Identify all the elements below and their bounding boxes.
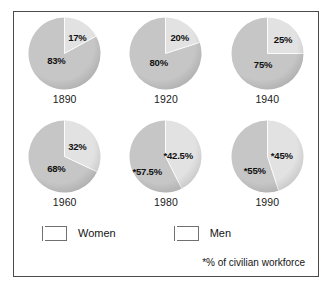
pie-chart-1960: 32%68% xyxy=(27,119,102,194)
legend-swatch-women xyxy=(42,226,67,241)
legend-swatch-men xyxy=(174,226,199,241)
legend-swatch-fill xyxy=(43,226,45,245)
pie-svg xyxy=(230,16,305,91)
pie-svg xyxy=(27,16,102,91)
pie-edge-shading xyxy=(130,18,202,90)
pie-label-women: *42.5% xyxy=(163,151,192,161)
legend-swatch-fill xyxy=(175,226,177,245)
pie-label-men: *55% xyxy=(244,166,266,176)
figure-frame: 17%83% 1890 20%80% 1920 25%75% 1940 32%6… xyxy=(13,11,319,277)
pie-label-women: 32% xyxy=(68,142,86,152)
pie-year-label: 1960 xyxy=(53,197,77,208)
pie-label-women: 20% xyxy=(170,33,188,43)
pie-chart-grid: 17%83% 1890 20%80% 1920 25%75% 1940 32%6… xyxy=(14,16,318,222)
pie-cell-1940: 25%75% 1940 xyxy=(225,16,309,105)
pie-svg xyxy=(27,119,102,194)
pie-svg xyxy=(128,16,203,91)
pie-cell-1920: 20%80% 1920 xyxy=(124,16,208,105)
pie-chart-1940: 25%75% xyxy=(230,16,305,91)
pie-row-top: 17%83% 1890 20%80% 1920 25%75% 1940 xyxy=(14,16,318,119)
pie-label-men: 83% xyxy=(47,56,65,66)
pie-year-label: 1890 xyxy=(53,94,77,105)
pie-year-label: 1980 xyxy=(154,197,178,208)
pie-cell-1890: 17%83% 1890 xyxy=(23,16,107,105)
legend-label-women: Women xyxy=(78,228,116,239)
pie-label-men: 80% xyxy=(149,58,167,68)
pie-label-men: *57.5% xyxy=(132,167,161,177)
pie-svg xyxy=(230,119,305,194)
pie-row-bottom: 32%68% 1960 *42.5%*57.5% 1980 *45%*55% 1… xyxy=(14,119,318,222)
pie-label-men: 75% xyxy=(254,60,272,70)
pie-label-women: 17% xyxy=(68,33,86,43)
pie-cell-1990: *45%*55% 1990 xyxy=(225,119,309,208)
pie-chart-1920: 20%80% xyxy=(128,16,203,91)
pie-edge-shading xyxy=(29,121,101,193)
legend-item-men: Men xyxy=(174,226,231,241)
pie-chart-1890: 17%83% xyxy=(27,16,102,91)
pie-label-women: 25% xyxy=(274,35,292,45)
pie-edge-shading xyxy=(29,18,101,90)
legend-label-men: Men xyxy=(210,228,231,239)
pie-cell-1960: 32%68% 1960 xyxy=(23,119,107,208)
pie-cell-1980: *42.5%*57.5% 1980 xyxy=(124,119,208,208)
legend-item-women: Women xyxy=(42,226,116,241)
chart-legend: Women Men xyxy=(14,226,318,241)
pie-label-women: *45% xyxy=(271,151,293,161)
pie-edge-shading xyxy=(231,18,303,90)
pie-label-men: 68% xyxy=(47,164,65,174)
pie-year-label: 1920 xyxy=(154,94,178,105)
pie-chart-1980: *42.5%*57.5% xyxy=(128,119,203,194)
pie-year-label: 1990 xyxy=(255,197,279,208)
pie-year-label: 1940 xyxy=(255,94,279,105)
chart-footnote: *% of civilian workforce xyxy=(202,258,305,268)
pie-chart-1990: *45%*55% xyxy=(230,119,305,194)
